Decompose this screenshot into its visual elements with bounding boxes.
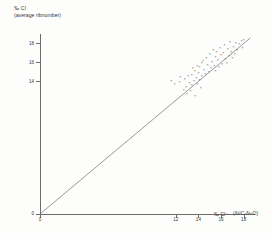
data-point xyxy=(214,70,217,73)
data-point xyxy=(217,66,220,69)
y-tick-label: 18 xyxy=(20,41,34,46)
x-tick-label: 0 xyxy=(33,217,47,222)
y-tick-mark xyxy=(36,62,40,63)
x-tick-label: 16 xyxy=(214,217,228,222)
data-point xyxy=(215,51,218,54)
data-point xyxy=(198,66,201,69)
y-tick-label: 0 xyxy=(20,211,34,216)
data-point xyxy=(242,39,245,42)
data-point xyxy=(190,74,193,77)
data-point xyxy=(189,90,192,93)
data-point xyxy=(179,76,182,79)
data-point xyxy=(173,83,176,86)
x-tick-label: 12 xyxy=(169,217,183,222)
data-point xyxy=(205,57,208,60)
data-point xyxy=(233,53,236,56)
data-point xyxy=(193,95,196,98)
x-axis-caption: ‰ Cl⁻ xyxy=(214,211,228,217)
data-point xyxy=(218,47,221,50)
scatter-plot-figure: ‰ Cl (average ribnumber) 0141618 0121416… xyxy=(0,0,271,233)
x-axis-caption-note: (δ¹³C-δ¹⁸O) xyxy=(233,210,258,216)
y-axis-label: ‰ Cl (average ribnumber) xyxy=(14,5,114,19)
data-point xyxy=(228,41,231,44)
y-axis-line xyxy=(40,34,41,215)
data-point xyxy=(223,44,226,47)
data-point xyxy=(196,83,199,86)
data-point xyxy=(241,47,244,50)
y-tick-mark xyxy=(36,81,40,82)
data-point xyxy=(198,79,201,82)
data-point xyxy=(199,87,202,90)
data-point xyxy=(190,84,193,87)
data-point xyxy=(222,52,225,55)
data-point xyxy=(213,65,216,68)
y-axis-label-line1: ‰ Cl xyxy=(14,5,114,12)
data-point xyxy=(207,71,210,74)
data-point xyxy=(231,57,234,60)
data-point xyxy=(220,63,223,66)
data-point xyxy=(225,62,228,65)
y-tick-label: 16 xyxy=(20,60,34,65)
data-point xyxy=(184,86,187,89)
y-tick-mark xyxy=(36,43,40,44)
x-tick-label: 18 xyxy=(237,217,251,222)
data-point xyxy=(235,49,238,52)
y-tick-label: 14 xyxy=(20,79,34,84)
x-tick-label: 14 xyxy=(191,217,205,222)
y-axis-label-line2: (average ribnumber) xyxy=(14,12,114,19)
data-point xyxy=(208,53,211,56)
data-point xyxy=(216,59,219,62)
data-point xyxy=(177,81,180,84)
